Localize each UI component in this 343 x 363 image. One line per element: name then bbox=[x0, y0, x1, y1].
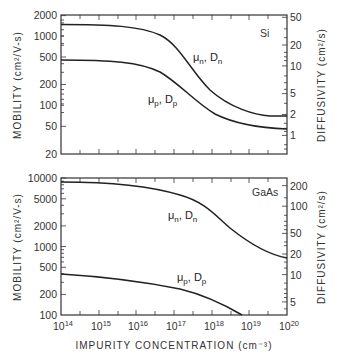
si-right-y-axis-title: DIFFUSIVITY (cm²/s) bbox=[316, 28, 327, 142]
svg-text:1018: 1018 bbox=[204, 319, 224, 332]
svg-text:50: 50 bbox=[290, 227, 302, 239]
si-panel: 2000 1000 500 200 100 50 20 50 20 10 5 2… bbox=[12, 9, 327, 160]
gaas-left-y-ticks bbox=[61, 178, 66, 294]
gaas-right-y-ticks bbox=[282, 186, 287, 309]
svg-text:1: 1 bbox=[290, 129, 296, 141]
svg-text:2000: 2000 bbox=[34, 220, 58, 232]
si-mu-p-curve bbox=[61, 60, 287, 129]
svg-text:1000: 1000 bbox=[34, 241, 58, 253]
svg-text:1020: 1020 bbox=[279, 319, 299, 332]
si-material-label: Si bbox=[260, 27, 269, 39]
mobility-diffusivity-chart: 2000 1000 500 200 100 50 20 50 20 10 5 2… bbox=[0, 0, 343, 363]
si-left-tick-labels: 2000 1000 500 200 100 50 20 bbox=[34, 9, 58, 160]
si-y-axis-title: MOBILITY (cm²/V-s) bbox=[12, 31, 23, 139]
svg-text:5: 5 bbox=[290, 87, 296, 99]
gaas-mu-p-curve bbox=[61, 274, 242, 315]
svg-text:1014: 1014 bbox=[53, 319, 73, 332]
gaas-left-tick-labels: 10000 5000 2000 1000 500 200 100 bbox=[28, 172, 57, 321]
svg-text:200: 200 bbox=[290, 180, 308, 192]
svg-text:1019: 1019 bbox=[241, 319, 261, 332]
si-left-y-ticks bbox=[61, 16, 66, 127]
svg-text:100: 100 bbox=[290, 200, 308, 212]
svg-text:5000: 5000 bbox=[34, 193, 58, 205]
svg-text:50: 50 bbox=[45, 120, 57, 132]
si-x-ticks bbox=[80, 15, 268, 154]
svg-text:100: 100 bbox=[39, 99, 57, 111]
svg-text:20: 20 bbox=[290, 39, 302, 51]
si-right-tick-labels: 50 20 10 5 2 1 bbox=[290, 11, 302, 141]
svg-text:5: 5 bbox=[290, 296, 296, 308]
gaas-mu-p-label: μp, Dp bbox=[177, 271, 207, 286]
svg-text:200: 200 bbox=[39, 78, 57, 90]
svg-text:10: 10 bbox=[290, 60, 302, 72]
gaas-mu-n-label: μn, Dn bbox=[168, 209, 197, 224]
svg-text:1015: 1015 bbox=[91, 319, 111, 332]
svg-text:200: 200 bbox=[39, 288, 57, 300]
gaas-right-tick-labels: 200 100 50 20 10 5 bbox=[290, 180, 308, 308]
si-mu-p-label: μp, Dp bbox=[148, 93, 178, 108]
gaas-x-ticks bbox=[80, 178, 268, 315]
svg-text:50: 50 bbox=[290, 11, 302, 23]
svg-text:10000: 10000 bbox=[28, 172, 57, 184]
gaas-panel: 10000 5000 2000 1000 500 200 100 200 100… bbox=[12, 172, 327, 321]
svg-text:2000: 2000 bbox=[34, 9, 58, 21]
svg-text:20: 20 bbox=[290, 248, 302, 260]
gaas-material-label: GaAs bbox=[252, 186, 278, 198]
si-plot-frame bbox=[61, 15, 287, 154]
x-axis-title: IMPURITY CONCENTRATION (cm⁻³) bbox=[76, 340, 273, 351]
svg-text:20: 20 bbox=[45, 148, 57, 160]
gaas-plot-frame bbox=[61, 178, 287, 315]
svg-text:1016: 1016 bbox=[128, 319, 148, 332]
svg-text:1000: 1000 bbox=[34, 30, 58, 42]
svg-text:2: 2 bbox=[290, 108, 296, 120]
svg-text:10: 10 bbox=[290, 269, 302, 281]
svg-text:1017: 1017 bbox=[166, 319, 186, 332]
x-tick-labels: 1014 1015 1016 1017 1018 1019 1020 bbox=[53, 319, 299, 332]
svg-text:500: 500 bbox=[39, 51, 57, 63]
si-mu-n-label: μn, Dn bbox=[193, 51, 222, 66]
svg-text:500: 500 bbox=[39, 261, 57, 273]
gaas-right-y-axis-title: DIFFUSIVITY (cm²/s) bbox=[316, 190, 327, 304]
gaas-y-axis-title: MOBILITY (cm²/V-s) bbox=[12, 193, 23, 301]
